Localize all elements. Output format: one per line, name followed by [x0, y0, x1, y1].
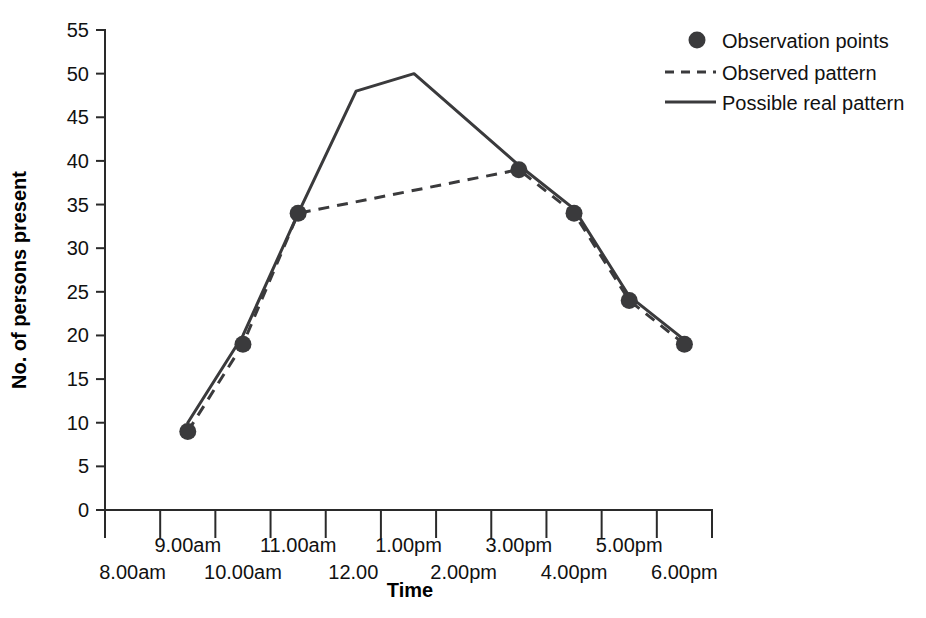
x-tick-label: 1.00pm	[375, 534, 442, 556]
y-tick-label: 45	[67, 106, 89, 128]
y-axis-ticks	[96, 30, 105, 510]
series-observation-points	[179, 161, 693, 440]
y-tick-label: 10	[67, 412, 89, 434]
chart-container: 0510152025303540455055 9.00am11.00am1.00…	[0, 0, 926, 618]
legend-label-observed-pattern: Observed pattern	[722, 62, 877, 84]
y-tick-label: 0	[78, 499, 89, 521]
x-tick-label: 9.00am	[154, 534, 221, 556]
y-tick-label: 50	[67, 63, 89, 85]
observation-point	[234, 336, 251, 353]
series-observed-pattern	[188, 170, 685, 432]
legend-label-possible-real-pattern: Possible real pattern	[722, 92, 904, 114]
line-chart: 0510152025303540455055 9.00am11.00am1.00…	[0, 0, 926, 618]
y-axis-title: No. of persons present	[8, 171, 30, 389]
y-tick-label: 5	[78, 455, 89, 477]
y-axis-tick-labels: 0510152025303540455055	[67, 19, 89, 521]
x-tick-label: 2.00pm	[430, 561, 497, 583]
legend-label-observation-points: Observation points	[722, 30, 889, 52]
x-tick-label: 8.00am	[99, 561, 166, 583]
legend-dot-icon	[689, 32, 706, 49]
x-tick-label: 12.00	[328, 561, 378, 583]
observation-point	[621, 292, 638, 309]
series-possible-real-pattern	[188, 74, 685, 423]
observation-point	[290, 205, 307, 222]
y-tick-label: 20	[67, 324, 89, 346]
x-tick-label: 4.00pm	[541, 561, 608, 583]
observation-point	[179, 423, 196, 440]
x-tick-label: 3.00pm	[486, 534, 553, 556]
x-axis-tick-labels-upper: 9.00am11.00am1.00pm3.00pm5.00pm	[154, 534, 662, 556]
y-tick-label: 35	[67, 194, 89, 216]
y-tick-label: 25	[67, 281, 89, 303]
observation-point	[566, 205, 583, 222]
x-tick-label: 6.00pm	[651, 561, 718, 583]
y-tick-label: 55	[67, 19, 89, 41]
y-tick-label: 40	[67, 150, 89, 172]
x-tick-label: 11.00am	[260, 534, 336, 556]
y-tick-label: 15	[67, 368, 89, 390]
x-axis-title: Time	[387, 579, 433, 601]
observation-point	[510, 161, 527, 178]
observation-point	[676, 336, 693, 353]
chart-legend: Observation points Observed pattern Poss…	[665, 30, 904, 114]
x-tick-label: 10.00am	[204, 561, 282, 583]
x-tick-label: 5.00pm	[596, 534, 663, 556]
y-tick-label: 30	[67, 237, 89, 259]
